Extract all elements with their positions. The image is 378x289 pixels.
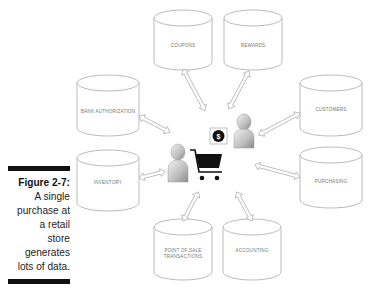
database-label: POINT OF SALE [164, 248, 201, 253]
caption-line: A single [15, 189, 70, 203]
double-arrow-icon [179, 67, 208, 112]
double-arrow-icon [225, 69, 252, 111]
database-bank-authorization: BANK AUTHORIZATION [77, 75, 139, 136]
database-coupons: COUPONS [154, 10, 212, 70]
database-customers: CUSTOMERS [300, 75, 362, 136]
database-label: TRANSACTIONS [164, 254, 202, 259]
figure-label: Figure 2-7: [15, 175, 70, 189]
svg-text:$: $ [217, 133, 221, 141]
database-label: COUPONS [171, 43, 196, 48]
shopping-cart-icon [190, 150, 222, 180]
caption-line: lots of data. [15, 259, 70, 273]
double-arrow-icon [254, 161, 301, 181]
arrows [137, 67, 302, 223]
database-label: BANK AUTHORIZATION [81, 109, 135, 114]
database-label: CUSTOMERS [315, 107, 346, 112]
database-label: PURCHASING [315, 179, 348, 184]
caption-rule-top [8, 166, 70, 171]
caption-line: a retail store [15, 217, 70, 245]
database-point-of-sale: POINT OF SALE TRANSACTIONS [154, 219, 212, 280]
caption-rule-bottom [8, 279, 70, 284]
double-arrow-icon [257, 109, 302, 138]
double-arrow-icon [179, 190, 202, 223]
caption-line: generates [15, 245, 70, 259]
shopper-person-icon [168, 144, 188, 182]
money-icon: $ [210, 128, 227, 144]
database-accounting: ACCOUNTING [223, 219, 281, 280]
database-label: INVENTORY [94, 180, 122, 185]
double-arrow-icon [138, 168, 166, 182]
database-purchasing: PURCHASING [300, 147, 362, 208]
database-rewards: REWARDS [224, 10, 282, 70]
figure-caption: Figure 2-7: A single purchase at a retai… [8, 166, 70, 284]
cashier-person-icon [234, 114, 254, 148]
caption-line: purchase at [15, 203, 70, 217]
double-arrow-icon [233, 190, 256, 223]
database-inventory: INVENTORY [77, 150, 139, 211]
database-label: REWARDS [241, 43, 266, 48]
database-label: ACCOUNTING [236, 248, 269, 253]
double-arrow-icon [137, 112, 172, 135]
